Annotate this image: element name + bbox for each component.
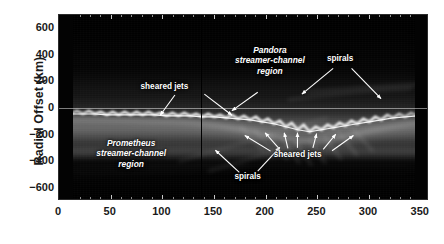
x-tick-250: 250 (294, 205, 338, 217)
x-minor-tickmark (152, 15, 153, 17)
x-minor-tickmark (328, 15, 329, 17)
x-minor-tickmark (90, 197, 91, 199)
x-minor-tickmark (121, 197, 122, 199)
x-minor-tickmark (80, 15, 81, 17)
x-tickmark (266, 195, 267, 199)
x-minor-tickmark (338, 15, 339, 17)
x-minor-tickmark (307, 197, 308, 199)
x-minor-tickmark (390, 15, 391, 17)
x-axis-tick-labels: 050100150200250300350 (0, 205, 444, 225)
x-minor-tickmark (224, 15, 225, 17)
x-minor-tickmark (131, 15, 132, 17)
y-tick-neg200: −200 (14, 128, 54, 140)
x-tickmark (111, 15, 112, 19)
x-minor-tickmark (348, 15, 349, 17)
x-minor-tickmark (193, 197, 194, 199)
figure-root: Radial Offset (km) 6004002000−200−400−60… (0, 0, 444, 244)
x-minor-tickmark (359, 197, 360, 199)
x-minor-tickmark (131, 197, 132, 199)
x-minor-tickmark (152, 197, 153, 199)
x-minor-tickmark (276, 15, 277, 17)
x-tick-150: 150 (191, 205, 235, 217)
x-tick-300: 300 (346, 205, 390, 217)
x-minor-tickmark (183, 15, 184, 17)
annotation-sheared-jets-upper: sheared jets (141, 82, 189, 92)
x-tickmark (369, 15, 370, 19)
x-minor-tickmark (297, 15, 298, 17)
x-minor-tickmark (235, 197, 236, 199)
x-tickmark (266, 15, 267, 19)
x-minor-tickmark (245, 197, 246, 199)
x-minor-tickmark (379, 197, 380, 199)
x-minor-tickmark (379, 15, 380, 17)
x-minor-tickmark (348, 197, 349, 199)
right-dark-pad (415, 15, 427, 199)
y-tick-200: 200 (14, 74, 54, 86)
x-tickmark (214, 15, 215, 19)
x-minor-tickmark (297, 197, 298, 199)
x-minor-tickmark (359, 15, 360, 17)
y-tick-0: 0 (14, 101, 54, 113)
x-minor-tickmark (410, 15, 411, 17)
x-minor-tickmark (173, 197, 174, 199)
x-minor-tickmark (307, 15, 308, 17)
x-minor-tickmark (255, 15, 256, 17)
x-minor-tickmark (286, 197, 287, 199)
x-minor-tickmark (410, 197, 411, 199)
y-tick-neg600: −600 (14, 181, 54, 193)
x-minor-tickmark (286, 15, 287, 17)
x-minor-tickmark (183, 197, 184, 199)
annotation-pandora-region: Pandorastreamer-channelregion (235, 45, 305, 77)
y-tick-400: 400 (14, 48, 54, 60)
ring-mosaic-image: sheared jetsPandorastreamer-channelregio… (59, 15, 427, 199)
x-minor-tickmark (400, 15, 401, 17)
x-minor-tickmark (400, 197, 401, 199)
x-tick-200: 200 (243, 205, 287, 217)
annotation-spirals-lower: spirals (234, 172, 260, 182)
left-dark-pad (59, 15, 73, 199)
y-tick-600: 600 (14, 21, 54, 33)
x-minor-tickmark (235, 15, 236, 17)
x-tickmark (317, 15, 318, 19)
x-minor-tickmark (142, 15, 143, 17)
x-minor-tickmark (255, 197, 256, 199)
x-minor-tickmark (193, 15, 194, 17)
x-minor-tickmark (276, 197, 277, 199)
x-tickmark (162, 195, 163, 199)
zero-reference-line (59, 108, 427, 109)
annotation-spirals-upper-right: spirals (327, 54, 353, 64)
plot-area: sheared jetsPandorastreamer-channelregio… (58, 14, 428, 200)
x-minor-tickmark (90, 15, 91, 17)
x-minor-tickmark (245, 15, 246, 17)
x-tickmark (214, 195, 215, 199)
x-minor-tickmark (224, 197, 225, 199)
x-minor-tickmark (80, 197, 81, 199)
x-minor-tickmark (100, 197, 101, 199)
annotation-sheared-jets-lower: sheared jets (274, 151, 322, 161)
x-minor-tickmark (338, 197, 339, 199)
x-tickmark (317, 195, 318, 199)
x-tick-50: 50 (88, 205, 132, 217)
x-minor-tickmark (328, 197, 329, 199)
x-minor-tickmark (100, 15, 101, 17)
x-minor-tickmark (204, 197, 205, 199)
x-minor-tickmark (121, 15, 122, 17)
y-tick-neg400: −400 (14, 154, 54, 166)
annotation-labels: sheared jetsPandorastreamer-channelregio… (59, 15, 427, 199)
x-tickmark (369, 195, 370, 199)
x-tick-0: 0 (36, 205, 80, 217)
x-minor-tickmark (204, 15, 205, 17)
x-tick-350: 350 (398, 205, 442, 217)
x-minor-tickmark (390, 197, 391, 199)
x-minor-tickmark (173, 15, 174, 17)
x-tick-100: 100 (139, 205, 183, 217)
mosaic-seam-line (201, 15, 202, 199)
x-tickmark (111, 195, 112, 199)
x-tickmark (162, 15, 163, 19)
x-minor-tickmark (142, 197, 143, 199)
annotation-prometheus-region: Prometheusstreamer-channelregion (96, 138, 166, 170)
